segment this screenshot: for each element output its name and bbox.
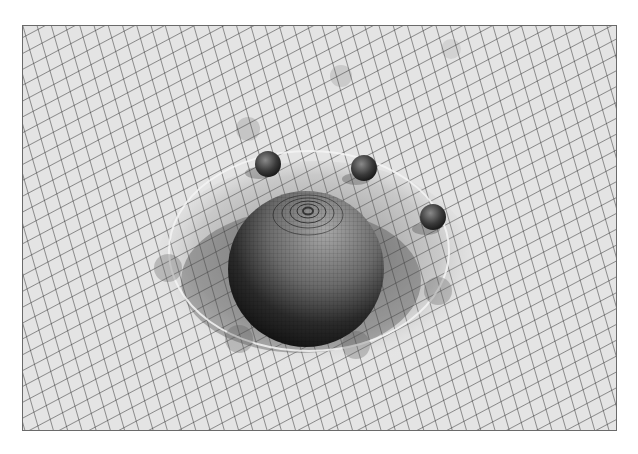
illustration-frame: [22, 25, 617, 431]
large-sphere: [228, 191, 384, 347]
spacetime-illustration: [23, 26, 617, 431]
